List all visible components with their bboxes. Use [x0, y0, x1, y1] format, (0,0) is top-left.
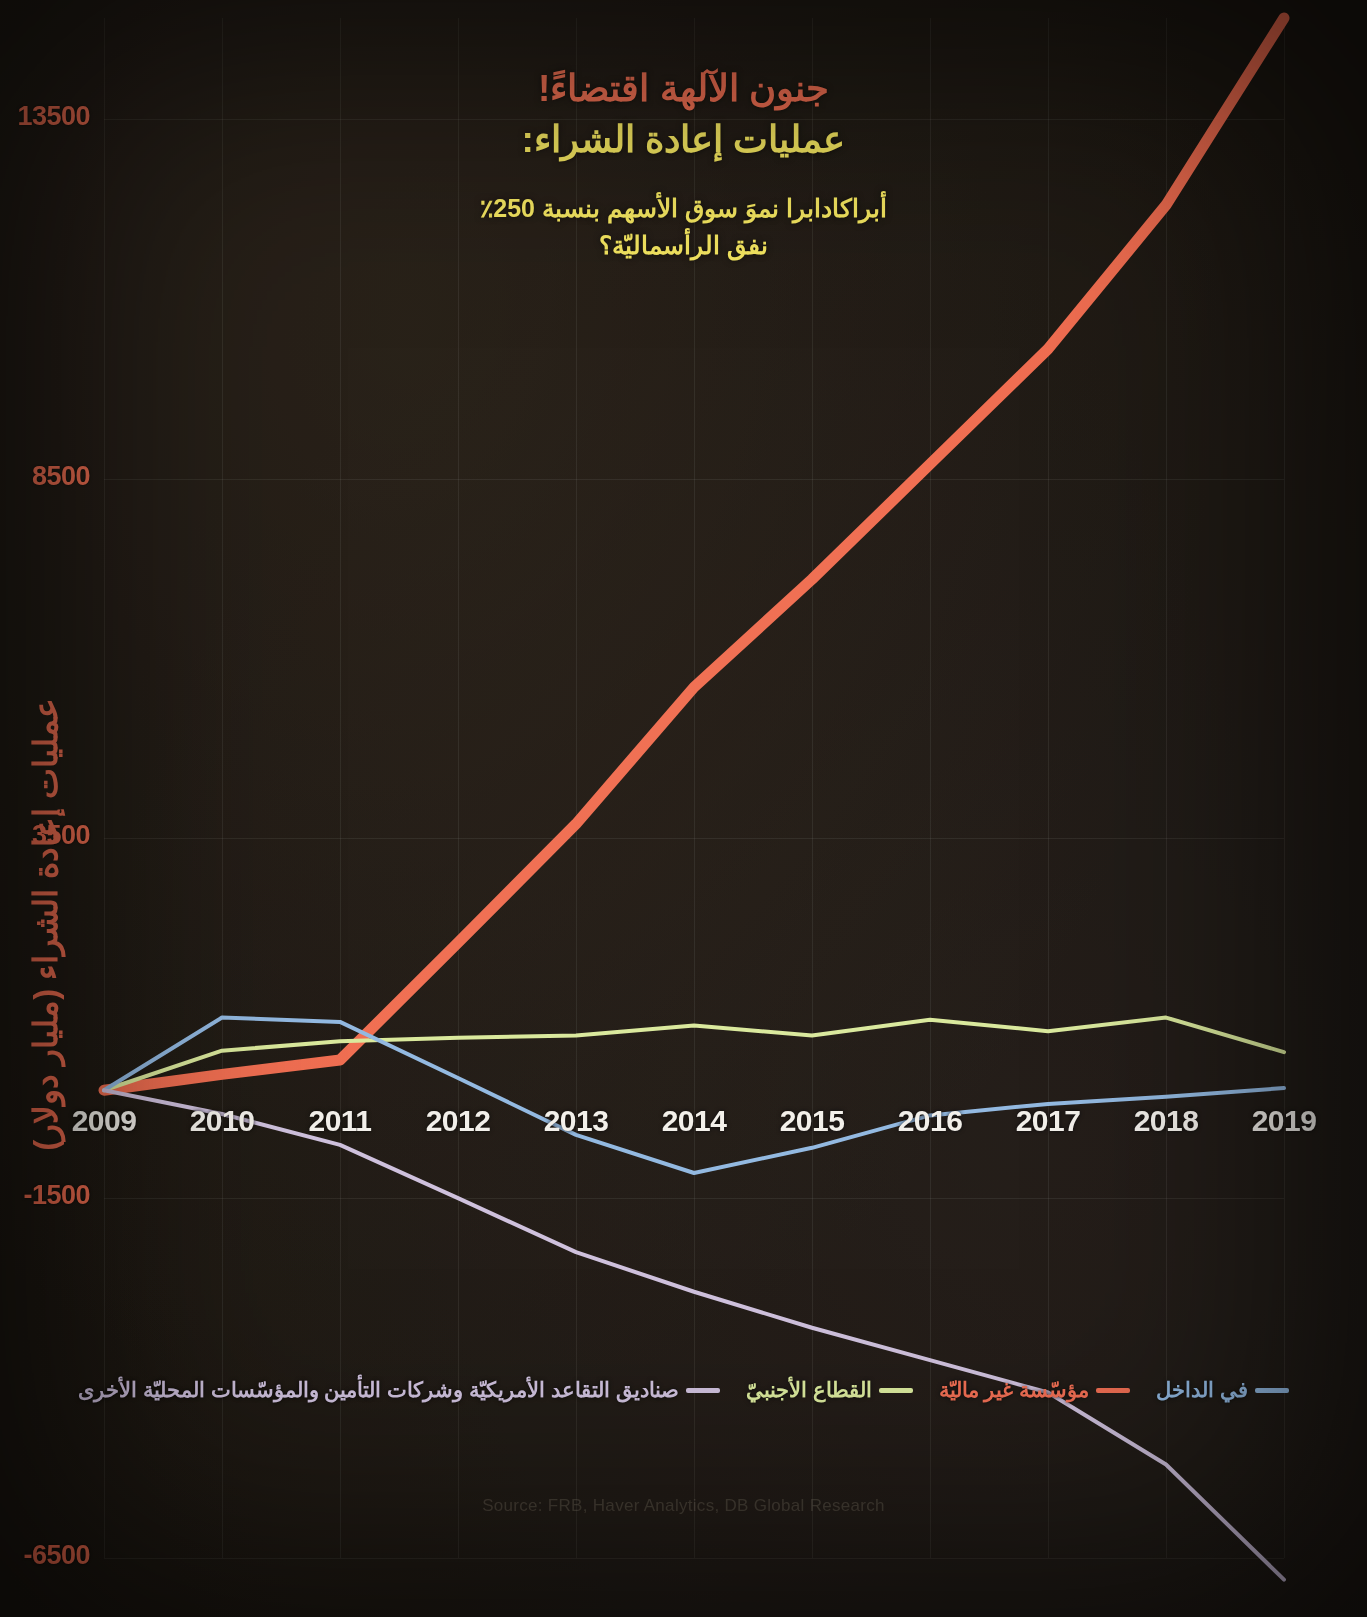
legend-color-swatch — [1255, 1388, 1289, 1393]
legend-item-label: في الداخل — [1156, 1378, 1248, 1402]
y-axis-tick-label: -6500 — [0, 1540, 90, 1571]
legend-item[interactable]: في الداخل — [1156, 1378, 1289, 1402]
legend-color-swatch — [879, 1388, 913, 1393]
legend-item[interactable]: القطاع الأجنبيّ — [746, 1378, 913, 1402]
legend-item[interactable]: صناديق التقاعد الأمريكيّة وشركات التأمين… — [78, 1378, 720, 1402]
legend-item-label: القطاع الأجنبيّ — [746, 1378, 872, 1402]
legend-item[interactable]: مؤسّسة غير ماليّة — [939, 1378, 1131, 1402]
series-line — [104, 18, 1284, 1090]
chart-legend: صناديق التقاعد الأمريكيّة وشركات التأمين… — [0, 1378, 1367, 1402]
legend-item-label: مؤسّسة غير ماليّة — [939, 1378, 1090, 1402]
series-line — [104, 1018, 1284, 1091]
x-axis-tick-label: 2016 — [898, 1104, 963, 1138]
series-line — [104, 1018, 1284, 1173]
plot-area — [104, 18, 1284, 1558]
x-axis-tick-label: 2013 — [544, 1104, 609, 1138]
y-axis-tick-label: 8500 — [0, 461, 90, 492]
x-axis-tick-label: 2012 — [426, 1104, 491, 1138]
x-axis-tick-label: 2010 — [190, 1104, 255, 1138]
legend-item-label: صناديق التقاعد الأمريكيّة وشركات التأمين… — [78, 1378, 679, 1402]
legend-color-swatch — [1096, 1388, 1130, 1393]
series-lines — [104, 18, 1284, 1558]
x-axis-tick-label: 2009 — [72, 1104, 137, 1138]
x-axis-tick-label: 2015 — [780, 1104, 845, 1138]
y-axis-label: عمليات إعادة الشراء (مليار دولار) — [26, 515, 65, 1335]
gridline-vertical — [1284, 18, 1285, 1558]
source-note: Source: FRB, Haver Analytics, DB Global … — [0, 1496, 1367, 1516]
chart-page: -6500-15003500850013500 عمليات إعادة الش… — [0, 0, 1367, 1617]
gridline-horizontal — [104, 1558, 1284, 1559]
legend-color-swatch — [686, 1388, 720, 1393]
x-axis-tick-label: 2019 — [1252, 1104, 1317, 1138]
y-axis-tick-label: 13500 — [0, 101, 90, 132]
x-axis-tick-label: 2011 — [308, 1104, 371, 1138]
x-axis-tick-label: 2014 — [662, 1104, 727, 1138]
x-axis-tick-label: 2017 — [1016, 1104, 1081, 1138]
x-axis-tick-label: 2018 — [1134, 1104, 1199, 1138]
